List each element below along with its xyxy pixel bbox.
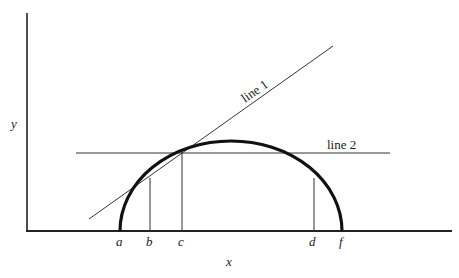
- point-f-label: f: [339, 234, 345, 249]
- line-1-label: line 1: [238, 76, 271, 105]
- x-axis-label: x: [225, 254, 232, 269]
- diagram-canvas: y x a b c d f line 2 line 1: [0, 0, 459, 278]
- y-axis-label: y: [9, 116, 17, 131]
- line-1: [89, 46, 333, 219]
- point-b-label: b: [146, 234, 153, 249]
- point-a-label: a: [116, 234, 123, 249]
- line-2-label: line 2: [327, 137, 356, 152]
- curve: [120, 141, 342, 231]
- point-d-label: d: [309, 234, 316, 249]
- point-c-label: c: [178, 234, 184, 249]
